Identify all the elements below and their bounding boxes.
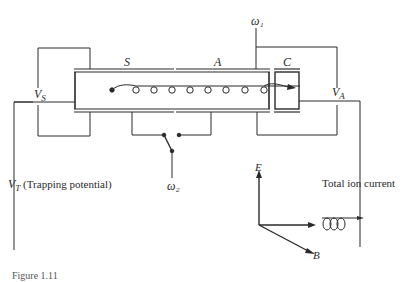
label-source: S	[124, 55, 130, 70]
switch-contact-left	[162, 133, 166, 137]
switch-pivot	[170, 149, 174, 153]
helix-icon	[322, 218, 360, 230]
label-collector: C	[283, 55, 291, 70]
label-b-field: B	[313, 249, 320, 261]
label-total-ion-current: Total ion current	[322, 177, 395, 189]
cell-body	[74, 69, 270, 112]
label-omega1: ω₁	[251, 14, 264, 29]
switch-contact-right	[177, 133, 181, 137]
ion-trajectory	[112, 84, 300, 93]
figure-caption: Figure 1.11	[12, 270, 58, 281]
label-e-field: E	[255, 161, 262, 173]
collector-plate	[274, 69, 300, 112]
label-omega2: ω₂	[167, 179, 180, 194]
ion-source-dot	[110, 88, 114, 92]
field-axes	[259, 176, 311, 252]
va-circuit	[256, 28, 360, 247]
trajectory-arrowhead	[287, 84, 296, 90]
label-analyzer: A	[214, 55, 221, 70]
label-va: VA	[332, 85, 345, 101]
omega2-switch-circuit	[132, 112, 211, 178]
vs-circuit	[14, 48, 90, 250]
label-trapping-potential: VT (Trapping potential)	[8, 177, 112, 193]
drift-arrowhead	[308, 222, 316, 228]
label-vs: VS	[34, 87, 46, 103]
